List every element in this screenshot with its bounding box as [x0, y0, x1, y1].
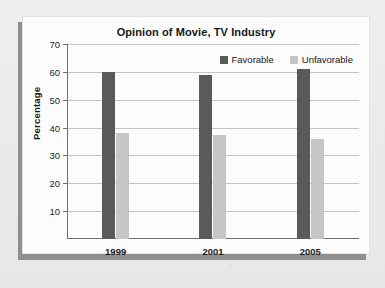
- x-tick-label: 1999: [105, 246, 126, 257]
- chart-legend: FavorableUnfavorable: [220, 54, 353, 65]
- bar-favorable-2001[interactable]: [199, 75, 212, 239]
- legend-label: Favorable: [232, 54, 274, 65]
- legend-item-unfavorable[interactable]: Unfavorable: [290, 54, 353, 65]
- legend-swatch-icon: [220, 56, 228, 64]
- bar-unfavorable-2005[interactable]: [311, 139, 324, 239]
- bar-favorable-2005[interactable]: [297, 69, 310, 239]
- plot-area: 10203040506070 199920012005 FavorableUnf…: [67, 44, 359, 239]
- legend-label: Unfavorable: [302, 54, 353, 65]
- bar-group: 2001: [164, 44, 261, 239]
- y-tick-label: 30: [49, 150, 60, 161]
- bar-group: 2005: [262, 44, 359, 239]
- bar-favorable-1999[interactable]: [102, 72, 115, 239]
- bar-unfavorable-2001[interactable]: [213, 135, 226, 239]
- y-tick-label: 60: [49, 66, 60, 77]
- bar-unfavorable-1999[interactable]: [116, 133, 129, 239]
- chart-card: Opinion of Movie, TV Industry Percentage…: [22, 16, 370, 254]
- chart-title: Opinion of Movie, TV Industry: [23, 26, 369, 38]
- x-tick-label: 2005: [300, 246, 321, 257]
- legend-item-favorable[interactable]: Favorable: [220, 54, 274, 65]
- y-tick-label: 10: [49, 206, 60, 217]
- legend-swatch-icon: [290, 56, 298, 64]
- y-tick-label: 70: [49, 39, 60, 50]
- y-tick-label: 20: [49, 178, 60, 189]
- y-tick-label: 50: [49, 94, 60, 105]
- y-tick-label: 40: [49, 122, 60, 133]
- y-axis-title: Percentage: [31, 87, 42, 140]
- bar-group: 1999: [67, 44, 164, 239]
- x-tick-label: 2001: [202, 246, 223, 257]
